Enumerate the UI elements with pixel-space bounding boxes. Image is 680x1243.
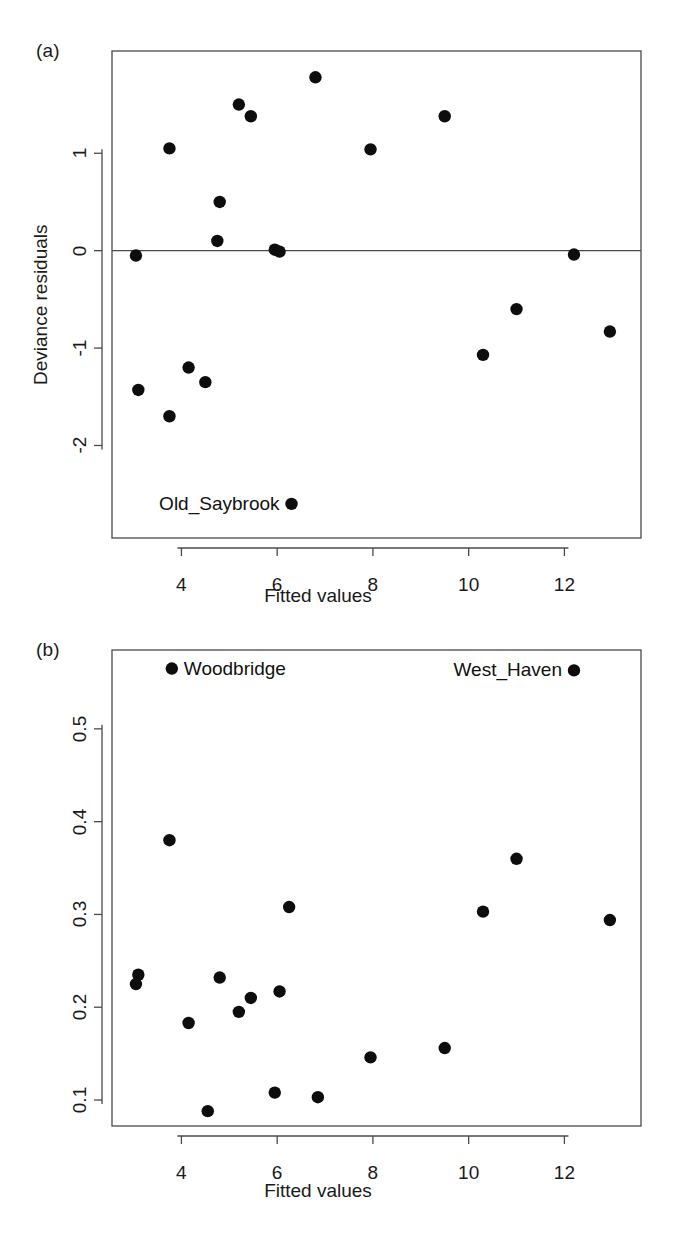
panel-a-tag: (a) (36, 40, 60, 62)
data-point (477, 905, 489, 917)
data-point (273, 985, 285, 997)
y-tick-label: 0.1 (69, 1087, 91, 1113)
data-point (211, 235, 223, 247)
panel-b-x-axis-title: Fitted values (0, 1180, 658, 1202)
data-point (202, 1105, 214, 1117)
data-point (477, 349, 489, 361)
data-point (163, 142, 175, 154)
data-point (568, 248, 580, 260)
panel-b-hat-diagonals: (b) Hat diagonals 46810120.50.40.30.20.1… (0, 620, 680, 1243)
data-point (132, 384, 144, 396)
data-point (245, 992, 257, 1004)
data-point (604, 914, 616, 926)
y-tick-label: -2 (69, 437, 91, 454)
data-point (214, 196, 226, 208)
plot-frame (112, 650, 641, 1126)
plot-frame (112, 51, 641, 538)
data-point (568, 664, 580, 676)
data-point (283, 901, 295, 913)
data-point (439, 110, 451, 122)
data-point (604, 325, 616, 337)
data-point (214, 971, 226, 983)
data-point (364, 143, 376, 155)
y-tick-label: 0 (69, 245, 91, 256)
x-tick-label: 10 (458, 574, 479, 596)
data-point (364, 1051, 376, 1063)
panel-a-deviance-residuals: (a) Deviance residuals Fitted values 468… (0, 0, 680, 620)
x-tick-label: 4 (176, 574, 187, 596)
data-point (309, 71, 321, 83)
data-point (130, 249, 142, 261)
data-point (269, 1086, 281, 1098)
panel-a-plot-area (0, 0, 680, 620)
panel-a-y-axis-title: Deviance residuals (30, 224, 52, 385)
point-annotation-label: West_Haven (454, 659, 562, 681)
data-point (182, 1017, 194, 1029)
data-point (510, 303, 522, 315)
y-tick-label: 1 (69, 148, 91, 159)
point-annotation-label: Old_Saybrook (159, 493, 279, 515)
x-tick-label: 12 (554, 574, 575, 596)
data-point (273, 245, 285, 257)
data-point (199, 376, 211, 388)
data-point (245, 110, 257, 122)
data-point (233, 98, 245, 110)
panel-b-tag: (b) (36, 639, 60, 661)
diagnostic-figure: (a) Deviance residuals Fitted values 468… (0, 0, 680, 1243)
y-tick-label: 0.2 (69, 994, 91, 1020)
data-point (182, 361, 194, 373)
y-tick-label: -1 (69, 340, 91, 357)
x-tick-label: 6 (272, 574, 283, 596)
data-point (439, 1042, 451, 1054)
point-annotation-label: Woodbridge (184, 658, 286, 680)
y-tick-label: 0.3 (69, 901, 91, 927)
data-point (312, 1091, 324, 1103)
data-point (166, 662, 178, 674)
data-point (132, 969, 144, 981)
y-tick-label: 0.4 (69, 808, 91, 834)
x-tick-label: 8 (368, 574, 379, 596)
panel-b-plot-area (0, 620, 680, 1243)
data-point (510, 853, 522, 865)
y-tick-label: 0.5 (69, 716, 91, 742)
data-point (233, 1006, 245, 1018)
data-point (285, 498, 297, 510)
data-point (163, 410, 175, 422)
data-point (163, 834, 175, 846)
